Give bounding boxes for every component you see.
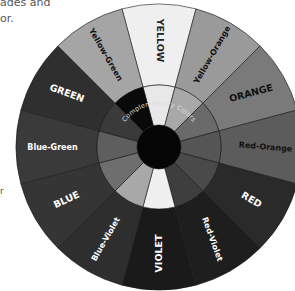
center-hole	[137, 125, 181, 169]
label-blue-green: Blue-Green	[27, 143, 78, 152]
label-violet: VIOLET	[153, 234, 164, 273]
label-yellow: YELLOW	[155, 18, 166, 63]
color-wheel: Complementary Colors YELLOWYellow-Orange…	[0, 0, 295, 291]
